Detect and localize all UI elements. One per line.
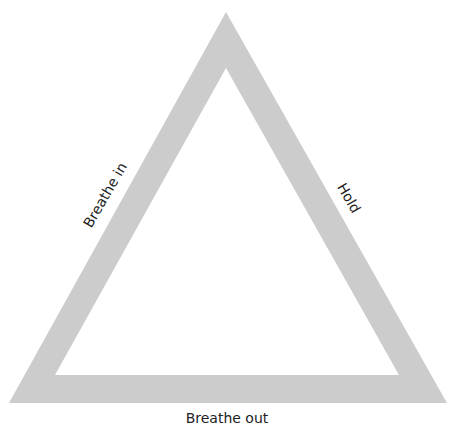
triangle-frame (9, 12, 447, 403)
label-breathe-out: Breathe out (186, 411, 269, 425)
